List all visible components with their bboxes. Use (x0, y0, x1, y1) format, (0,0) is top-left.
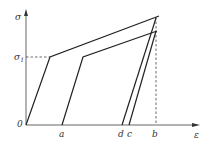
x-axis-arrow-icon (192, 123, 200, 127)
y-axis-arrow-icon (24, 9, 28, 16)
unloading-line-c (129, 31, 156, 125)
x-axis-label: ε (194, 130, 199, 140)
sigma1-label: σ1 (14, 52, 24, 63)
origin-label: 0 (17, 119, 23, 129)
unloading-line-d (122, 18, 156, 125)
point-d-label: d (118, 129, 124, 139)
axes (24, 9, 200, 127)
point-c-label: c (127, 129, 132, 139)
curves (26, 16, 159, 125)
sigma1-subscript: 1 (20, 56, 24, 63)
y-axis-label: σ (15, 12, 22, 22)
stress-strain-diagram: σ ε 0 σ1 a d c b (0, 0, 214, 143)
point-b-label: b (152, 129, 158, 139)
point-a-label: a (59, 129, 64, 139)
